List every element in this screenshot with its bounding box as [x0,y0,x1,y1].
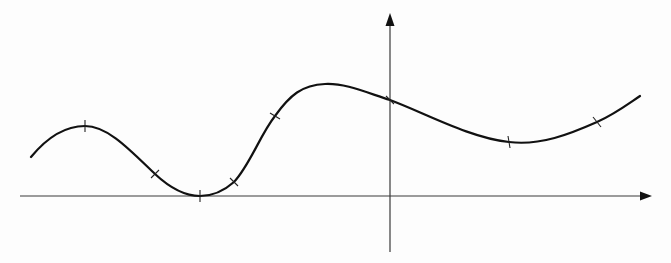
function-graph-diagram [0,0,671,263]
function-curve [31,84,640,196]
y-axis-arrow-icon [386,13,395,26]
point-marker [593,117,601,127]
x-axis-arrow-icon [640,192,652,201]
curve-point-markers [85,96,601,202]
point-marker [270,113,280,119]
graph-svg [0,0,671,263]
